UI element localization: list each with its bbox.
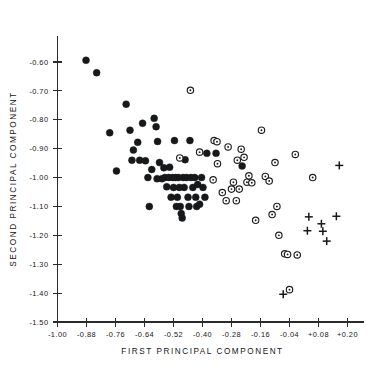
data-point-open-circle-center — [294, 153, 296, 155]
data-point-filled-circle — [181, 184, 188, 191]
x-tick-label: -0.40 — [193, 330, 212, 339]
y-axis-tick-labels: -0.60-0.70-0.80-0.90-1.00-1.10-1.20-1.30… — [29, 58, 48, 327]
y-tick-label: -0.90 — [29, 144, 48, 153]
data-point-filled-circle — [185, 203, 192, 210]
data-point-filled-circle — [123, 101, 130, 108]
data-point-open-circle-center — [189, 89, 191, 91]
data-point-open-circle-center — [248, 175, 250, 177]
series-open-circle-group — [177, 87, 316, 293]
data-point-filled-circle — [127, 127, 134, 134]
data-point-open-circle-center — [251, 182, 253, 184]
data-point-filled-circle — [151, 115, 158, 122]
data-point-open-circle-center — [232, 181, 234, 183]
data-point-open-circle-center — [276, 205, 278, 207]
data-point-filled-circle — [198, 174, 205, 181]
data-point-filled-circle — [113, 167, 120, 174]
data-point-filled-circle — [130, 147, 137, 154]
data-point-filled-circle — [239, 163, 246, 170]
y-tick-label: -1.30 — [29, 260, 48, 269]
data-point-filled-circle — [179, 215, 186, 222]
x-tick-label: -0.16 — [251, 330, 270, 339]
y-tick-label: -1.20 — [29, 231, 48, 240]
data-point-open-circle-center — [240, 148, 242, 150]
data-point-open-circle-center — [289, 289, 291, 291]
data-point-filled-circle — [83, 57, 90, 64]
data-point-filled-circle — [139, 120, 146, 127]
x-tick-label: -1.00 — [48, 330, 67, 339]
data-point-filled-circle — [148, 166, 155, 173]
y-tick-label: -1.40 — [29, 289, 48, 298]
data-point-filled-circle — [174, 194, 181, 201]
scatter-plot-figure: -0.60-0.70-0.80-0.90-1.00-1.10-1.20-1.30… — [0, 0, 376, 368]
data-point-open-circle-center — [235, 200, 237, 202]
x-tick-label: -0.76 — [106, 330, 125, 339]
x-axis-title: FIRST PRINCIPAL COMPONENT — [121, 347, 283, 356]
data-point-open-circle-center — [231, 188, 233, 190]
data-point-open-circle-center — [268, 180, 270, 182]
data-point-filled-circle — [203, 150, 210, 157]
data-point-filled-circle — [128, 157, 135, 164]
data-point-open-circle-center — [274, 162, 276, 164]
y-tick-label: -1.10 — [29, 202, 48, 211]
data-point-open-circle-center — [227, 146, 229, 148]
data-point-open-circle-center — [217, 163, 219, 165]
data-point-open-circle-center — [296, 254, 298, 256]
y-tick-label: -0.70 — [29, 87, 48, 96]
data-point-filled-circle — [134, 139, 141, 146]
data-point-filled-circle — [142, 157, 149, 164]
x-tick-label: +0.08 — [308, 330, 329, 339]
y-tick-label: -0.80 — [29, 115, 48, 124]
data-point-open-circle-center — [261, 129, 263, 131]
data-point-filled-circle — [153, 123, 160, 130]
data-point-open-circle-center — [179, 157, 181, 159]
data-point-filled-circle — [168, 194, 175, 201]
data-point-filled-circle — [166, 164, 173, 171]
data-point-open-circle-center — [236, 159, 238, 161]
data-point-filled-circle — [186, 137, 193, 144]
data-point-filled-circle — [154, 138, 161, 145]
data-point-filled-circle — [106, 129, 113, 136]
data-point-open-circle-center — [238, 188, 240, 190]
data-point-open-circle-center — [264, 175, 266, 177]
data-point-open-circle-center — [312, 177, 314, 179]
data-point-filled-circle — [163, 183, 170, 190]
data-point-open-circle-center — [278, 234, 280, 236]
data-point-open-circle-center — [246, 181, 248, 183]
data-point-open-circle-center — [271, 214, 273, 216]
y-axis-title: SECOND PRINCIPAL COMPONENT — [9, 91, 18, 266]
data-point-filled-circle — [185, 194, 192, 201]
data-point-open-circle-center — [287, 253, 289, 255]
data-points-layer — [83, 57, 344, 299]
x-tick-label: -0.88 — [77, 330, 96, 339]
x-tick-label: -0.64 — [135, 330, 154, 339]
data-point-open-circle-center — [225, 200, 227, 202]
data-point-open-circle-center — [216, 141, 218, 143]
data-point-open-circle-center — [255, 219, 257, 221]
x-tick-label: -0.52 — [164, 330, 183, 339]
data-point-open-circle-center — [199, 151, 201, 153]
y-tick-label: -1.50 — [29, 318, 48, 327]
x-tick-label: -0.28 — [222, 330, 241, 339]
data-point-filled-circle — [196, 201, 203, 208]
data-point-filled-circle — [199, 184, 206, 191]
x-tick-label: -0.04 — [280, 330, 299, 339]
data-point-filled-circle — [213, 150, 220, 157]
data-point-filled-circle — [146, 203, 153, 210]
data-point-filled-circle — [177, 203, 184, 210]
x-axis-tick-labels: -1.00-0.88-0.76-0.64-0.52-0.40-0.28-0.16… — [48, 330, 358, 339]
data-point-filled-circle — [191, 174, 198, 181]
series-filled-circle-group — [83, 57, 246, 222]
data-point-open-circle-center — [243, 156, 245, 158]
series-plus-group — [279, 161, 343, 298]
plot-canvas: -0.60-0.70-0.80-0.90-1.00-1.10-1.20-1.30… — [0, 0, 376, 368]
data-point-open-circle-center — [221, 192, 223, 194]
data-point-filled-circle — [171, 137, 178, 144]
data-point-open-circle-center — [212, 179, 214, 181]
data-point-filled-circle — [93, 69, 100, 76]
x-tick-label: +0.20 — [337, 330, 358, 339]
y-tick-label: -0.60 — [29, 58, 48, 67]
y-tick-label: -1.00 — [29, 173, 48, 182]
data-point-filled-circle — [144, 174, 151, 181]
data-point-filled-circle — [154, 175, 161, 182]
data-point-filled-circle — [201, 194, 208, 201]
